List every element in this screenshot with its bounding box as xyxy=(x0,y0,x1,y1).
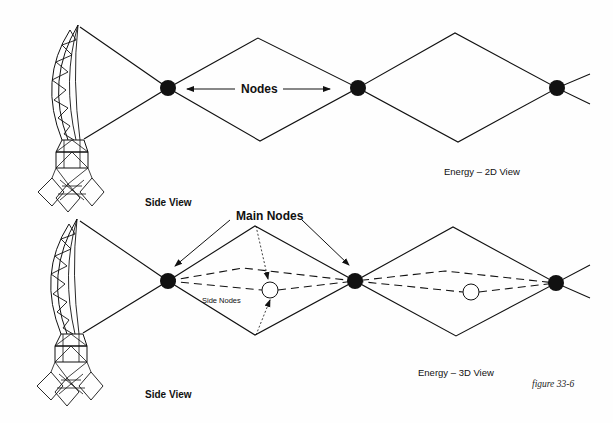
figure-canvas: Nodes Energy – 2D View Side View Main No… xyxy=(0,0,613,423)
node-1 xyxy=(160,80,176,96)
main-nodes-arrow-right xyxy=(302,220,349,265)
main-nodes-label: Main Nodes xyxy=(236,209,304,223)
main-node-1 xyxy=(160,273,176,289)
node-2 xyxy=(350,80,366,96)
energy-wave-2d xyxy=(80,27,590,142)
side-view-label-bottom: Side View xyxy=(145,389,192,400)
side-nodes-arrow-top xyxy=(256,226,268,279)
node-3 xyxy=(549,80,565,96)
bottom-panel-diagram xyxy=(37,219,103,406)
bottom-panel-lines: Main Nodes Side Nodes Energy – 3D View f… xyxy=(80,209,590,400)
side-view-label-top: Side View xyxy=(145,197,192,208)
top-panel-diagram: Nodes Energy – 2D View Side View xyxy=(38,25,590,212)
side-nodes-label: Side Nodes xyxy=(202,296,241,305)
side-node-1 xyxy=(262,282,278,298)
main-node-3 xyxy=(548,275,564,291)
antenna-icon xyxy=(38,25,104,212)
main-node-2 xyxy=(347,273,363,289)
caption-2d: Energy – 2D View xyxy=(444,166,520,177)
side-node-2 xyxy=(463,284,479,300)
side-nodes-arrow-bottom xyxy=(256,300,270,335)
figure-label: figure 33-6 xyxy=(532,379,574,389)
energy-wave-3d xyxy=(80,221,590,336)
antenna-icon xyxy=(37,219,103,406)
caption-3d: Energy – 3D View xyxy=(418,367,494,378)
nodes-label: Nodes xyxy=(241,82,278,96)
